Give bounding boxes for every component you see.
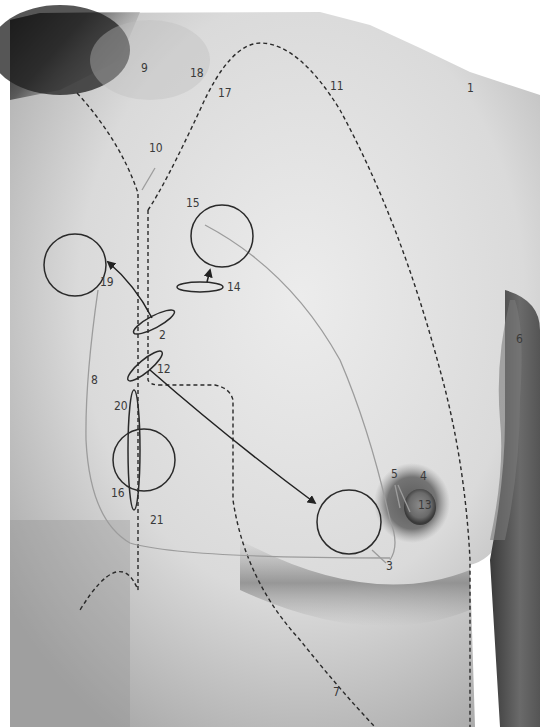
- label-21: 21: [150, 513, 164, 527]
- annotated-chest-figure: 1 2 3 4 5 6 7 8 9 10 11 12 13 14 15 16 1…: [0, 0, 555, 727]
- label-20: 20: [114, 399, 128, 413]
- label-6: 6: [516, 332, 523, 346]
- label-15: 15: [186, 196, 200, 210]
- label-17: 17: [218, 86, 232, 100]
- label-10: 10: [149, 141, 163, 155]
- label-1: 1: [467, 81, 474, 95]
- torso-photo: [0, 5, 540, 727]
- label-13: 13: [418, 498, 432, 512]
- label-9: 9: [141, 61, 148, 75]
- label-19: 19: [100, 275, 114, 289]
- label-2: 2: [159, 328, 166, 342]
- label-11: 11: [330, 79, 344, 93]
- label-4: 4: [420, 469, 427, 483]
- label-3: 3: [386, 559, 393, 573]
- label-18: 18: [190, 66, 204, 80]
- label-8: 8: [91, 373, 98, 387]
- label-12: 12: [157, 362, 171, 376]
- label-7: 7: [333, 685, 340, 699]
- label-5: 5: [391, 467, 398, 481]
- label-14: 14: [227, 280, 241, 294]
- label-16: 16: [111, 486, 125, 500]
